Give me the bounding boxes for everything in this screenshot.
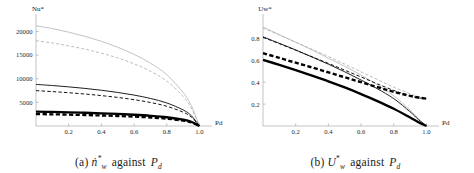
curve-thick-dashed	[36, 114, 199, 126]
svg-text:0.4: 0.4	[251, 79, 260, 86]
chart-b-svg: 0.20.40.60.81.00.20.40.60.8Uw*Pd	[237, 0, 474, 148]
caption-b-prefix: (b)	[310, 156, 324, 168]
svg-text:0.8: 0.8	[390, 128, 399, 135]
svg-text:0.4: 0.4	[324, 128, 333, 135]
svg-text:0.8: 0.8	[163, 128, 172, 135]
svg-text:0.6: 0.6	[130, 128, 139, 135]
figure-container: 0.20.40.60.81.05000100001500020000Nu*Pd …	[0, 0, 474, 173]
svg-text:Pd: Pd	[442, 119, 450, 127]
caption-a-xsub: d	[158, 162, 162, 171]
chart-a-plot: 0.20.40.60.81.05000100001500020000Nu*Pd	[0, 0, 237, 148]
caption-b-verb: against	[350, 156, 384, 168]
caption-b-sub: w	[340, 162, 345, 171]
svg-text:5000: 5000	[19, 99, 33, 106]
caption-b-xsymbol: P	[389, 156, 396, 168]
panel-a: 0.20.40.60.81.05000100001500020000Nu*Pd …	[0, 0, 237, 173]
caption-b: (b) U*w against Pd	[237, 154, 474, 171]
svg-text:Nu*: Nu*	[32, 5, 45, 13]
caption-a-sub: w	[101, 162, 106, 171]
svg-text:Pd: Pd	[215, 119, 223, 127]
caption-a: (a) ṅ*w against Pd	[0, 154, 237, 171]
svg-text:0.4: 0.4	[97, 128, 106, 135]
svg-text:0.6: 0.6	[251, 57, 260, 64]
curve-thick-dashed	[263, 53, 426, 98]
svg-text:Uw*: Uw*	[258, 5, 272, 13]
caption-a-prefix: (a)	[75, 156, 88, 168]
svg-text:0.8: 0.8	[251, 35, 260, 42]
svg-text:0.6: 0.6	[357, 128, 366, 135]
svg-text:15000: 15000	[16, 51, 33, 58]
caption-a-verb: against	[112, 156, 146, 168]
caption-b-symbol: U	[328, 156, 337, 168]
svg-text:1.0: 1.0	[195, 128, 204, 135]
caption-b-xsub: d	[397, 162, 401, 171]
svg-text:1.0: 1.0	[422, 128, 431, 135]
svg-text:0.2: 0.2	[292, 128, 300, 135]
curve-thick-solid	[263, 60, 426, 126]
svg-text:0.2: 0.2	[251, 101, 259, 108]
svg-text:20000: 20000	[16, 28, 33, 35]
svg-text:0.2: 0.2	[65, 128, 73, 135]
panel-b: 0.20.40.60.81.00.20.40.60.8Uw*Pd (b) U*w…	[237, 0, 474, 173]
caption-a-xsymbol: P	[151, 156, 158, 168]
svg-text:10000: 10000	[16, 75, 33, 82]
curve-light-solid	[263, 27, 426, 126]
caption-a-symbol: ṅ*w	[92, 156, 107, 168]
chart-b-plot: 0.20.40.60.81.00.20.40.60.8Uw*Pd	[237, 0, 474, 148]
chart-a-svg: 0.20.40.60.81.05000100001500020000Nu*Pd	[0, 0, 237, 148]
